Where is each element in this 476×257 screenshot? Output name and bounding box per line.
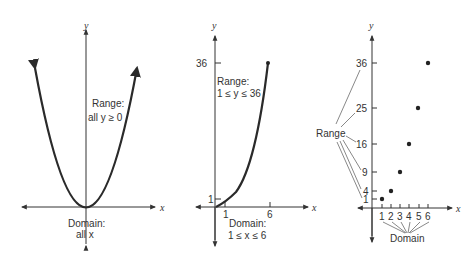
x-tick-label: 2 [388,211,394,222]
y-axis-label: y [368,20,374,31]
x-axis-label: x [311,202,317,213]
y-tick-label: 25 [356,103,368,114]
y-tick-label-1: 1 [208,194,214,205]
y-tick-label: 16 [356,139,368,150]
y-ticks: 36 25 16 9 4 1 [356,58,377,205]
panel-discrete-points: y x 36 25 16 9 4 1 1 2 3 4 [316,20,461,244]
x-tick-label: 6 [425,211,431,222]
point-3-9 [398,170,402,174]
x-ticks: 1 2 3 4 5 6 [379,204,431,222]
point-5-25 [416,106,420,110]
x-tick-label: 4 [406,211,412,222]
point-6-36 [426,61,430,65]
point-1-1 [380,197,384,201]
x-tick-label: 1 [379,211,385,222]
domain-label: Domain [390,233,424,244]
range-value: 1 ≤ y ≤ 36 [217,88,261,99]
domain-range-figure: y x Range: all y ≥ 0 Domain: all x y x 3… [0,0,476,257]
x-tick-label: 5 [416,211,422,222]
point-2-4 [389,189,393,193]
y-tick-label: 36 [356,58,368,69]
x-axis-label: x [159,202,165,213]
panel-parabola-restricted: y x 36 1 1 6 Range: 1 ≤ y ≤ 36 Domain: 1… [196,20,317,246]
range-label: Range: [92,98,124,109]
x-tick-label-6: 6 [267,209,273,220]
domain-leader-lines [383,222,429,233]
endpoint-dot [266,61,270,65]
y-tick-label: 1 [363,194,369,205]
y-axis-label: y [211,20,217,31]
range-label: Range: [217,76,249,87]
domain-value: all x [76,229,94,240]
range-label: Range [316,128,346,139]
domain-label: Domain: [68,218,105,229]
point-4-16 [407,142,411,146]
y-tick-label: 9 [362,167,368,178]
x-axis-label: x [455,203,461,214]
domain-label: Domain: [229,218,266,229]
y-tick-label-36: 36 [196,58,208,69]
y-axis-label: y [83,20,89,31]
panel-parabola-all-x: y x Range: all y ≥ 0 Domain: all x [22,20,165,250]
data-points [380,61,430,201]
domain-value: 1 ≤ x ≤ 6 [228,230,267,241]
range-value: all y ≥ 0 [88,112,123,123]
x-tick-label: 3 [397,211,403,222]
